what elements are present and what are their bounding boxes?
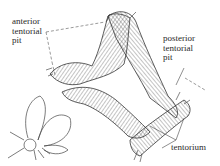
butterfly-icon (8, 96, 71, 160)
label-tentorium: tentorium (171, 143, 206, 153)
label-posterior-tentorial-pit: posterior tentorial pit (163, 34, 195, 63)
diagram-canvas: anterior tentorial pit posterior tentori… (0, 0, 220, 166)
label-anterior-tentorial-pit: anterior tentorial pit (12, 17, 42, 46)
corpotentorium (62, 87, 150, 138)
